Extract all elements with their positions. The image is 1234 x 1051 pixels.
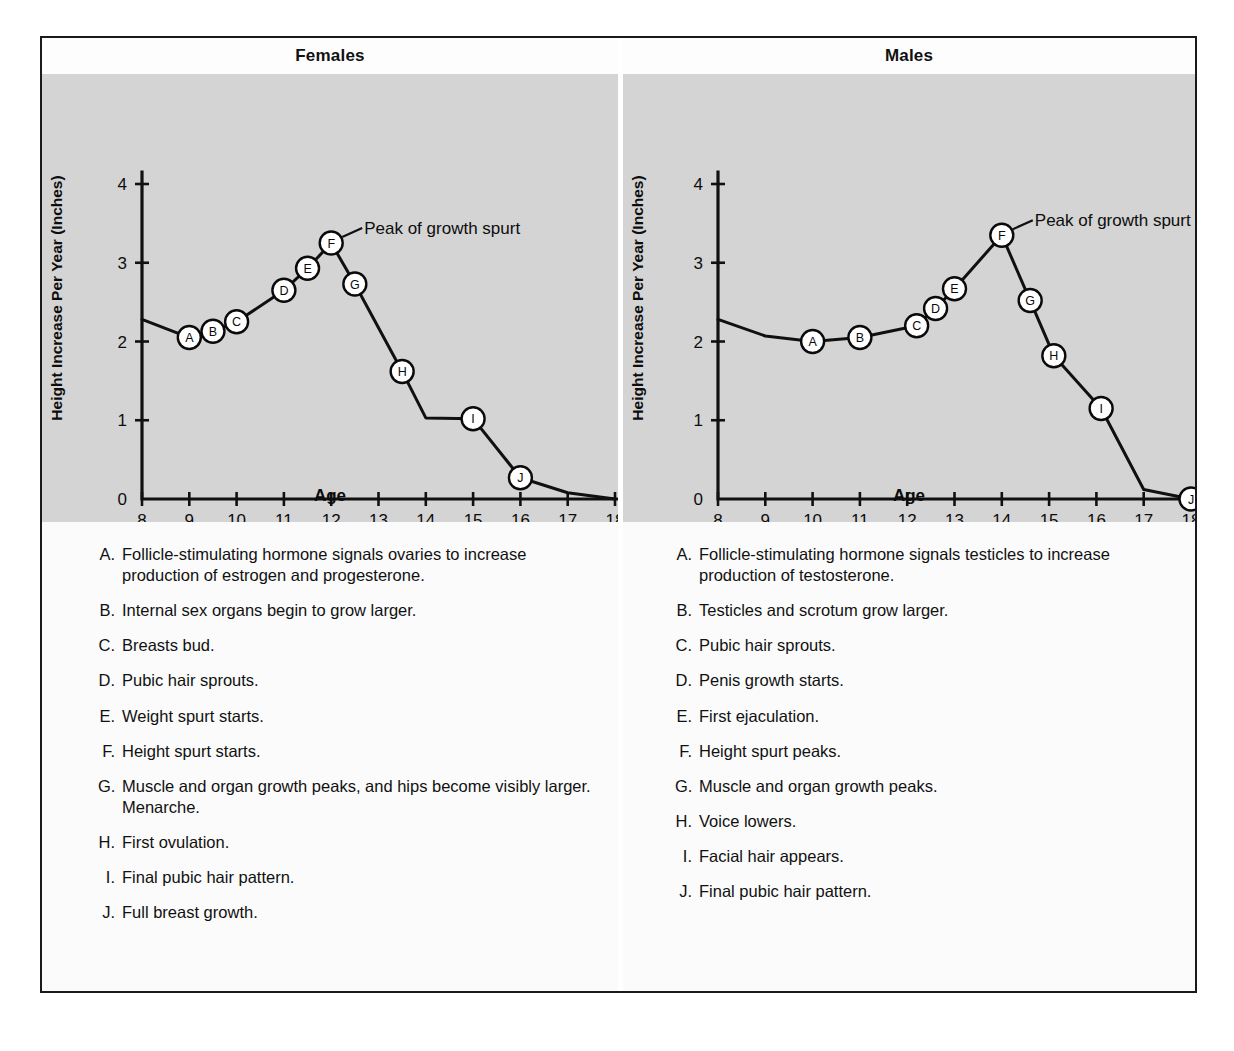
legend-item: A.Follicle-stimulating hormone signals o…	[42, 544, 618, 586]
legend-item-text: Facial hair appears.	[699, 846, 1175, 867]
legend-item-key: E.	[675, 706, 699, 727]
legend-item: J.Final pubic hair pattern.	[623, 881, 1195, 902]
x-tick-label: 14	[416, 511, 435, 522]
data-series-line	[142, 243, 615, 499]
legend-item: H.First ovulation.	[42, 832, 618, 853]
legend-item-key: F.	[675, 741, 699, 762]
legend-item-text: First ejaculation.	[699, 706, 1175, 727]
legend-item-key: H.	[675, 811, 699, 832]
svg-text:B: B	[856, 331, 864, 345]
legend-item-text: Voice lowers.	[699, 811, 1175, 832]
legend-item-key: H.	[98, 832, 122, 853]
legend-item: E.Weight spurt starts.	[42, 706, 618, 727]
svg-text:C: C	[912, 319, 921, 333]
y-axis-label-text-females: Height Increase Per Year (Inches)	[48, 175, 66, 420]
y-tick-label: 1	[694, 411, 703, 430]
legend-item: G.Muscle and organ growth peaks, and hip…	[42, 776, 618, 818]
y-tick-label: 3	[118, 254, 127, 273]
y-tick-label: 4	[118, 175, 127, 194]
svg-text:I: I	[1099, 402, 1102, 416]
x-axis-label-females: Age	[42, 486, 618, 506]
y-tick-label: 2	[118, 333, 127, 352]
svg-text:F: F	[327, 237, 335, 251]
legend-item-key: J.	[98, 902, 122, 923]
panel-title-males: Males	[885, 46, 933, 66]
x-tick-label: 15	[1040, 511, 1059, 522]
svg-text:D: D	[279, 284, 288, 298]
x-tick-label: 12	[322, 511, 341, 522]
legend-item-key: A.	[675, 544, 699, 586]
legend-item-key: J.	[675, 881, 699, 902]
legend-item-text: Follicle-stimulating hormone signals ova…	[122, 544, 594, 586]
legend-item-key: G.	[675, 776, 699, 797]
legend-item: B.Internal sex organs begin to grow larg…	[42, 600, 618, 621]
x-tick-label: 18	[1182, 511, 1195, 522]
data-point-marker-d: D	[924, 297, 947, 320]
y-tick-label: 3	[694, 254, 703, 273]
legend-item-text: First ovulation.	[122, 832, 594, 853]
x-tick-label: 9	[185, 511, 194, 522]
legend-item-text: Pubic hair sprouts.	[699, 635, 1175, 656]
x-tick-label: 13	[945, 511, 964, 522]
panel-males: Males Height Increase Per Year (Inches) …	[623, 38, 1195, 991]
legend-item-text: Internal sex organs begin to grow larger…	[122, 600, 594, 621]
x-tick-label: 8	[713, 511, 722, 522]
annotation-label: Peak of growth spurt	[1035, 211, 1191, 230]
y-axis-label-females: Height Increase Per Year (Inches)	[44, 74, 70, 522]
svg-text:C: C	[232, 315, 241, 329]
legend-item-text: Final pubic hair pattern.	[699, 881, 1175, 902]
y-tick-label: 2	[694, 333, 703, 352]
data-point-marker-a: A	[801, 330, 824, 353]
x-tick-label: 9	[761, 511, 770, 522]
svg-text:J: J	[517, 471, 523, 485]
x-tick-label: 16	[511, 511, 530, 522]
data-point-marker-h: H	[1042, 344, 1065, 367]
data-point-marker-b: B	[848, 326, 871, 349]
legend-item-text: Penis growth starts.	[699, 670, 1175, 691]
x-tick-label: 13	[369, 511, 388, 522]
x-axis-label-males: Age	[623, 486, 1195, 506]
data-point-marker-c: C	[905, 314, 928, 337]
data-point-marker-e: E	[943, 277, 966, 300]
annotation-leader-line	[342, 228, 362, 237]
panel-container: Females Height Increase Per Year (Inches…	[42, 38, 1195, 991]
svg-text:D: D	[931, 302, 940, 316]
legend-list-males: A.Follicle-stimulating hormone signals t…	[623, 544, 1195, 902]
data-point-marker-g: G	[1019, 289, 1042, 312]
legend-item-key: I.	[98, 867, 122, 888]
data-point-marker-h: H	[391, 360, 414, 383]
x-tick-label: 17	[1134, 511, 1153, 522]
svg-text:H: H	[398, 365, 407, 379]
figure-frame: Females Height Increase Per Year (Inches…	[40, 36, 1197, 993]
data-point-marker-a: A	[178, 326, 201, 349]
svg-text:G: G	[1025, 294, 1035, 308]
chart-area-males: Height Increase Per Year (Inches) 891011…	[623, 74, 1195, 522]
legend-item-key: G.	[98, 776, 122, 818]
legend-list-females: A.Follicle-stimulating hormone signals o…	[42, 544, 618, 923]
data-series-line	[718, 235, 1191, 499]
legend-item-key: D.	[98, 670, 122, 691]
legend-item-key: B.	[675, 600, 699, 621]
y-tick-label: 4	[694, 175, 703, 194]
legend-item: D.Pubic hair sprouts.	[42, 670, 618, 691]
line-chart-females: 8910111213141516171801234Peak of growth …	[42, 74, 618, 522]
svg-text:I: I	[471, 412, 474, 426]
data-point-marker-f: F	[320, 232, 343, 255]
legend-item-key: C.	[675, 635, 699, 656]
x-tick-label: 8	[137, 511, 146, 522]
svg-text:G: G	[350, 278, 360, 292]
x-tick-label: 11	[275, 511, 293, 522]
data-point-marker-i: I	[1090, 397, 1113, 420]
legend-item: F.Height spurt peaks.	[623, 741, 1195, 762]
svg-text:A: A	[808, 335, 817, 349]
data-point-marker-f: F	[990, 224, 1013, 247]
x-tick-label: 10	[227, 511, 246, 522]
legend-item-key: I.	[675, 846, 699, 867]
data-point-marker-d: D	[272, 279, 295, 302]
svg-text:E: E	[303, 262, 311, 276]
legend-item: C.Pubic hair sprouts.	[623, 635, 1195, 656]
x-tick-label: 17	[558, 511, 577, 522]
legend-item-text: Follicle-stimulating hormone signals tes…	[699, 544, 1175, 586]
x-tick-label: 15	[464, 511, 483, 522]
legend-item-text: Full breast growth.	[122, 902, 594, 923]
